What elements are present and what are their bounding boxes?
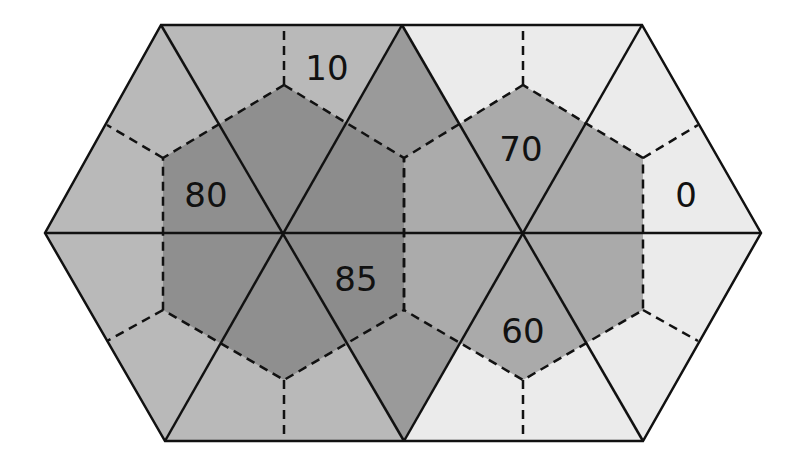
region-label-85: 85 (334, 262, 377, 296)
region-label-0: 0 (675, 178, 697, 212)
region-label-60: 60 (501, 314, 544, 348)
region-label-10: 10 (305, 51, 348, 85)
region-label-70: 70 (499, 132, 542, 166)
region-label-80: 80 (184, 178, 227, 212)
tessellation-diagram (0, 0, 801, 465)
